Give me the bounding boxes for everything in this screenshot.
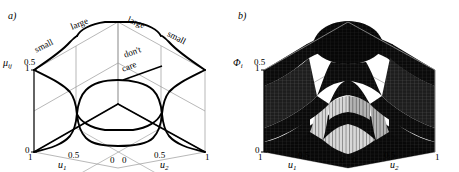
panel-a-x-axis-label: u1 — [58, 159, 67, 172]
figure-container: a) — [0, 0, 459, 172]
panel-b: b) — [230, 0, 459, 172]
panel-a: a) — [0, 0, 229, 172]
panel-a-y-tick-0: 0 — [122, 155, 127, 165]
panel-b-y-tick-0: 0 — [352, 155, 357, 165]
panel-a-x-tick-1: 1 — [28, 152, 33, 162]
panel-a-x-tick-0: 0 — [110, 155, 115, 165]
panel-a-graphics — [0, 0, 229, 172]
panel-a-x-tick-05: 0.5 — [68, 150, 79, 160]
panel-a-z-axis-label: μij — [3, 57, 12, 70]
panel-b-graphics — [230, 0, 459, 172]
panel-b-x-tick-05: 0.5 — [298, 150, 309, 160]
panel-a-y-axis-label: u2 — [160, 159, 169, 172]
panel-b-y-tick-1: 1 — [435, 152, 440, 162]
panel-b-x-tick-0: 0 — [340, 155, 345, 165]
panel-a-z-tick-05: 0.5 — [24, 57, 35, 67]
panel-b-z-tick-05: 0.5 — [254, 57, 265, 67]
panel-b-x-axis-label: u1 — [288, 159, 297, 172]
panel-b-z-axis-label: Φi — [233, 57, 243, 70]
panel-b-x-tick-1: 1 — [258, 152, 263, 162]
panel-b-y-axis-label: u2 — [390, 159, 399, 172]
panel-b-surface — [264, 21, 435, 168]
panel-a-y-tick-1: 1 — [205, 152, 210, 162]
